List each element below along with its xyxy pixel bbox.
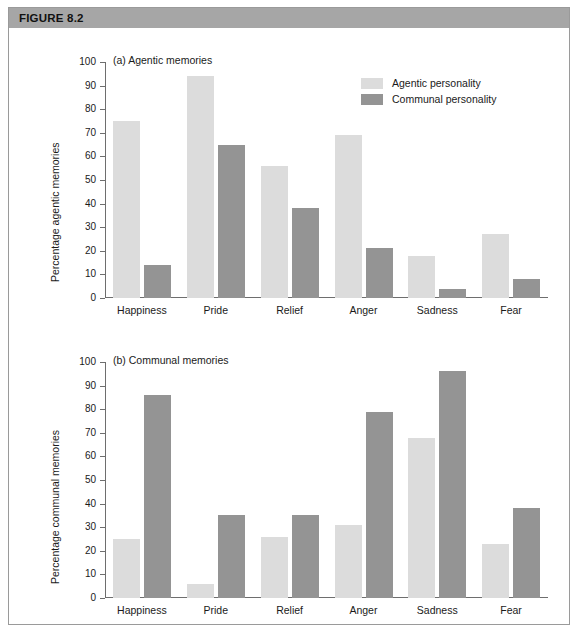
y-axis-tick-label: 40	[85, 198, 96, 209]
bar-group: Sadness	[400, 362, 474, 598]
bar-group: Relief	[253, 62, 327, 298]
x-axis-tick-label: Pride	[179, 604, 253, 616]
y-axis-tick-label: 10	[85, 568, 96, 579]
x-axis-tick-label: Fear	[474, 604, 548, 616]
bar-agentic	[482, 234, 509, 298]
figure-number-label: FIGURE 8.2	[19, 12, 84, 24]
y-axis-tick: 0	[100, 298, 105, 299]
y-axis-tick: 0	[100, 598, 105, 599]
x-axis-tick-label: Anger	[327, 304, 401, 316]
y-axis-tick-label: 0	[90, 292, 96, 303]
bar-communal	[292, 208, 319, 298]
x-axis-tick-label: Fear	[474, 304, 548, 316]
plot-area-b: 0102030405060708090100 HappinessPrideRel…	[105, 362, 548, 598]
bar-agentic	[335, 135, 362, 298]
bar-communal	[218, 145, 245, 298]
bar-communal	[439, 371, 466, 598]
bar-communal	[366, 248, 393, 298]
y-axis-tick-label: 60	[85, 450, 96, 461]
y-axis-tick-label: 0	[90, 592, 96, 603]
x-axis-tick-label: Sadness	[400, 604, 474, 616]
bar-group: Pride	[179, 362, 253, 598]
bar-communal	[144, 395, 171, 598]
y-axis-tick-label: 20	[85, 545, 96, 556]
bar-group: Pride	[179, 62, 253, 298]
x-axis-tick-label: Pride	[179, 304, 253, 316]
legend-item-communal: Communal personality	[361, 92, 496, 106]
legend-item-agentic: Agentic personality	[361, 76, 496, 90]
bar-communal	[513, 508, 540, 598]
figure-frame: FIGURE 8.2 (a) Agentic memories Percenta…	[8, 7, 570, 625]
y-axis-tick-label: 50	[85, 474, 96, 485]
bar-agentic	[335, 525, 362, 598]
bar-agentic	[187, 584, 214, 598]
bar-communal	[292, 515, 319, 598]
bar-group: Relief	[253, 362, 327, 598]
y-axis-tick-label: 10	[85, 268, 96, 279]
bar-agentic	[261, 537, 288, 598]
x-axis-tick-label: Relief	[253, 304, 327, 316]
y-axis-tick-label: 30	[85, 221, 96, 232]
bar-communal	[439, 289, 466, 298]
y-axis-tick-label: 60	[85, 150, 96, 161]
bar-group: Anger	[327, 362, 401, 598]
bar-agentic	[113, 539, 140, 598]
y-axis-label-b: Percentage communal memories	[49, 430, 61, 584]
y-axis-tick-label: 100	[79, 356, 96, 367]
y-axis-tick-label: 80	[85, 103, 96, 114]
y-axis-tick-label: 40	[85, 498, 96, 509]
bar-agentic	[187, 76, 214, 298]
x-axis-tick-label: Happiness	[105, 604, 179, 616]
bar-group: Happiness	[105, 362, 179, 598]
bar-agentic	[408, 256, 435, 298]
y-axis-label-a: Percentage agentic memories	[49, 143, 61, 283]
bar-communal	[218, 515, 245, 598]
bar-group: Fear	[474, 362, 548, 598]
bar-agentic	[408, 438, 435, 598]
chart-legend: Agentic personality Communal personality	[361, 76, 496, 108]
legend-label-agentic: Agentic personality	[392, 77, 481, 89]
y-axis-tick-label: 30	[85, 521, 96, 532]
bar-communal	[513, 279, 540, 298]
x-axis-tick-label: Happiness	[105, 304, 179, 316]
figure-header-bar: FIGURE 8.2	[9, 8, 569, 28]
y-axis-tick-label: 70	[85, 127, 96, 138]
y-axis-tick-label: 70	[85, 427, 96, 438]
legend-swatch-communal-icon	[361, 94, 383, 105]
x-axis-tick-label: Sadness	[400, 304, 474, 316]
legend-label-communal: Communal personality	[392, 93, 496, 105]
bar-agentic	[113, 121, 140, 298]
bar-communal	[144, 265, 171, 298]
x-axis-tick-label: Relief	[253, 604, 327, 616]
bar-communal	[366, 412, 393, 598]
chart-panel-agentic-memories: (a) Agentic memories Percentage agentic …	[9, 30, 569, 325]
y-axis-tick-label: 80	[85, 403, 96, 414]
legend-swatch-agentic-icon	[361, 78, 383, 89]
y-axis-tick-label: 90	[85, 380, 96, 391]
bar-agentic	[482, 544, 509, 598]
bar-agentic	[261, 166, 288, 298]
y-axis-tick-label: 100	[79, 56, 96, 67]
bar-group: Happiness	[105, 62, 179, 298]
y-axis-tick-label: 50	[85, 174, 96, 185]
x-axis-tick-label: Anger	[327, 604, 401, 616]
chart-panel-communal-memories: (b) Communal memories Percentage communa…	[9, 326, 569, 624]
y-axis-tick-label: 20	[85, 245, 96, 256]
y-axis-tick-label: 90	[85, 80, 96, 91]
